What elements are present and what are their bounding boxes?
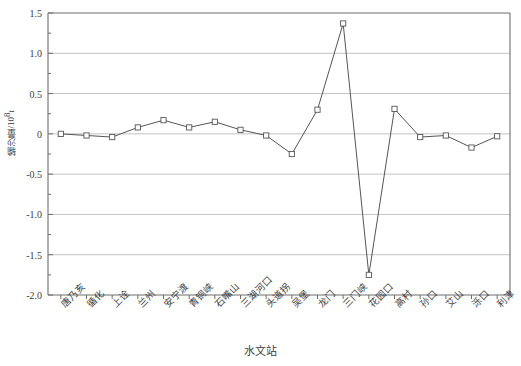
y-axis-tick-label: 1.5 [10,8,42,19]
gridlines [48,53,510,254]
data-series-line [61,23,497,274]
y-axis-tick-label: -1.5 [10,249,42,260]
chart-figure: 输沙量/108t 1.51.00.50-0.5-1.0-1.5-2.0 唐乃亥循… [0,0,521,366]
y-axis-tick-label: -1.0 [10,209,42,220]
y-axis-tick-label: 1.0 [10,48,42,59]
axis-frame [48,13,510,295]
y-axis-tick-label: 0 [10,128,42,139]
y-axis-tick-label: -2.0 [10,290,42,301]
y-axis-tick-label: -0.5 [10,169,42,180]
y-axis-tick-label: 0.5 [10,88,42,99]
plot-area [0,0,521,366]
x-axis-title: 水文站 [0,342,521,358]
data-series-markers [58,21,500,278]
